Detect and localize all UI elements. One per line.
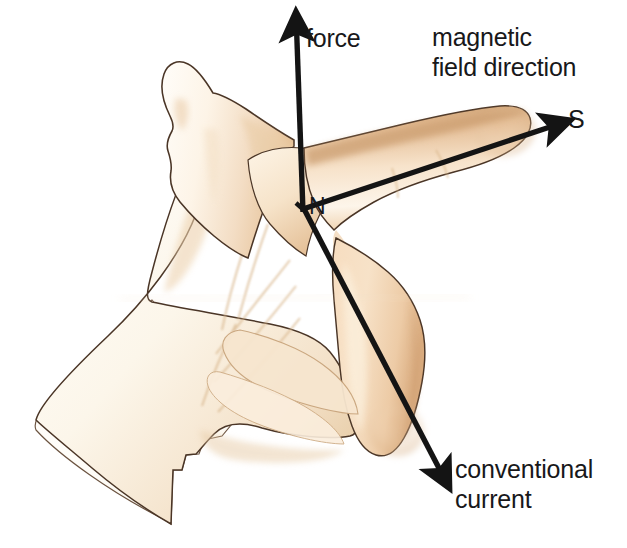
conventional-current-label: conventional current — [455, 455, 593, 514]
magnetic-field-direction-label: magnetic field direction — [432, 23, 576, 82]
south-pole-label: S — [568, 105, 584, 135]
force-label: force — [306, 24, 361, 54]
diagram-canvas: force magnetic field direction S N conve… — [0, 0, 627, 548]
north-pole-label: N — [309, 193, 325, 220]
